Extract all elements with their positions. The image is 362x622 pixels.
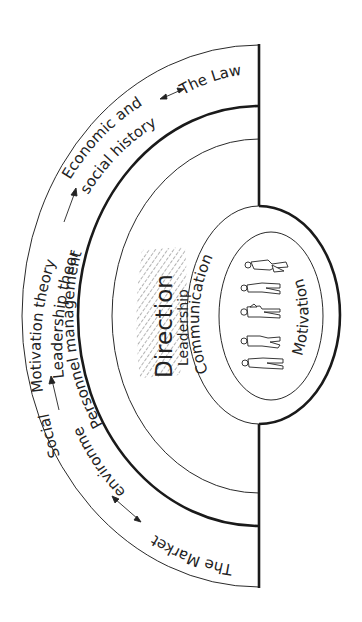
- arrow-social-motivation: [49, 376, 59, 410]
- label-social: Social: [35, 412, 64, 460]
- person-figure-5: [242, 358, 283, 369]
- person-figure-2: [241, 283, 280, 294]
- label-environment: environment: [0, 0, 129, 502]
- label-the-law: The Law: [176, 61, 243, 99]
- label-personnel-management: Personnel management: [59, 248, 106, 431]
- management-direction-diagram: The Law Economic and social history Moti…: [0, 0, 362, 622]
- label-communication: Communication: [185, 251, 217, 377]
- person-figure-1: [245, 260, 288, 272]
- label-direction: Direction: [151, 274, 177, 378]
- person-figure-3: [241, 304, 280, 318]
- label-the-market: The Market: [147, 531, 234, 579]
- label-motivation: Motivation: [289, 277, 313, 358]
- arrow-economic-motivation: [64, 188, 77, 222]
- person-figure-4: [241, 336, 280, 348]
- people-figures: [241, 260, 288, 369]
